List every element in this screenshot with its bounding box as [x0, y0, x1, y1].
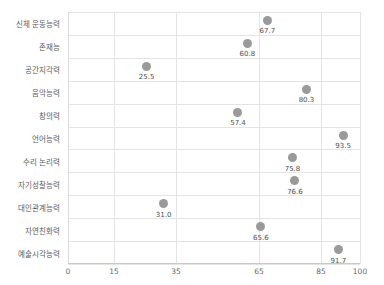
y-axis-tick-label: 신체 운동능력 — [16, 18, 60, 29]
grid-line-horizontal — [68, 127, 360, 128]
data-point-value-label: 57.4 — [230, 119, 246, 127]
grid-line-vertical — [321, 12, 322, 264]
grid-line-horizontal — [68, 58, 360, 59]
data-point[interactable] — [159, 199, 168, 208]
data-point-value-label: 65.6 — [253, 234, 269, 242]
grid-line-horizontal — [68, 241, 360, 242]
grid-line-horizontal — [68, 12, 360, 13]
x-axis-tick-label: 0 — [66, 267, 71, 276]
data-point-value-label: 76.6 — [287, 188, 303, 196]
grid-line-horizontal — [68, 81, 360, 82]
grid-line-horizontal — [68, 218, 360, 219]
data-point[interactable] — [256, 222, 265, 231]
x-axis-line — [68, 263, 360, 264]
data-point[interactable] — [302, 85, 311, 94]
plot-area: 67.760.825.580.357.493.575.876.631.065.6… — [68, 12, 360, 264]
y-axis-tick-label: 존재능 — [39, 41, 60, 52]
data-point[interactable] — [339, 131, 348, 140]
data-point[interactable] — [288, 153, 297, 162]
grid-line-vertical — [176, 12, 177, 264]
y-axis-tick-label: 음악능력 — [32, 87, 60, 98]
y-axis-tick-label: 창의력 — [39, 110, 60, 121]
y-axis-tick-label: 수리 논리력 — [23, 155, 60, 166]
grid-line-horizontal — [68, 104, 360, 105]
data-point[interactable] — [243, 39, 252, 48]
x-axis-labels: 015356585100 — [0, 265, 384, 281]
grid-line-horizontal — [68, 195, 360, 196]
y-axis-tick-label: 자연친화력 — [25, 224, 60, 235]
x-axis-tick-label: 65 — [254, 267, 264, 276]
x-axis-tick-label: 15 — [109, 267, 119, 276]
grid-line-horizontal — [68, 172, 360, 173]
data-point[interactable] — [263, 16, 272, 25]
grid-line-horizontal — [68, 149, 360, 150]
y-axis-tick-label: 언어능력 — [32, 133, 60, 144]
y-axis-tick-label: 예술시각능력 — [18, 247, 60, 258]
y-axis-tick-label: 자기성찰능력 — [18, 178, 60, 189]
x-axis-tick-label: 100 — [353, 267, 367, 276]
data-point[interactable] — [233, 108, 242, 117]
data-point[interactable] — [334, 245, 343, 254]
data-point-value-label: 31.0 — [156, 211, 172, 219]
data-point[interactable] — [142, 62, 151, 71]
x-axis-tick-label: 35 — [171, 267, 181, 276]
dot-plot-chart: 67.760.825.580.357.493.575.876.631.065.6… — [0, 0, 384, 285]
grid-line-vertical — [360, 12, 361, 264]
data-point-value-label: 60.8 — [240, 50, 256, 58]
y-axis-tick-label: 공간지각력 — [25, 64, 60, 75]
x-axis-tick-label: 85 — [316, 267, 326, 276]
data-point-value-label: 75.8 — [285, 165, 301, 173]
data-point[interactable] — [290, 176, 299, 185]
grid-line-horizontal — [68, 35, 360, 36]
y-axis-line — [68, 12, 69, 264]
data-point-value-label: 67.7 — [260, 27, 276, 35]
data-point-value-label: 25.5 — [139, 73, 155, 81]
y-axis-tick-label: 대인관계능력 — [18, 201, 60, 212]
data-point-value-label: 80.3 — [299, 96, 315, 104]
data-point-value-label: 93.5 — [335, 142, 351, 150]
grid-line-vertical — [114, 12, 115, 264]
y-axis-labels: 신체 운동능력존재능공간지각력음악능력창의력언어능력수리 논리력자기성찰능력대인… — [0, 12, 64, 264]
